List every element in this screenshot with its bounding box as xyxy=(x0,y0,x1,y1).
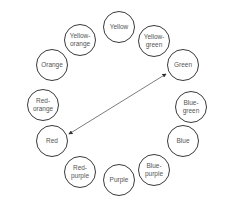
node-label: Red- purple xyxy=(71,164,89,180)
node-blue-green: Blue- green xyxy=(175,91,207,123)
node-red-purple: Red- purple xyxy=(64,156,96,188)
node-yellow: Yellow xyxy=(103,11,135,43)
node-red-orange: Red- orange xyxy=(27,89,59,121)
node-yellow-green: Yellow- green xyxy=(138,25,170,57)
node-label: Orange xyxy=(41,61,63,69)
node-orange: Orange xyxy=(36,49,68,81)
node-label: Red xyxy=(46,137,58,145)
node-label: Blue- purple xyxy=(145,162,163,178)
color-wheel-diagram: Yellow Yellow- green Green Blue- green B… xyxy=(0,0,232,205)
node-label: Yellow xyxy=(110,23,129,31)
node-label: Purple xyxy=(110,176,129,184)
node-label: Yellow- orange xyxy=(70,32,91,48)
node-green: Green xyxy=(167,49,199,81)
node-label: Red- orange xyxy=(33,97,53,113)
node-red: Red xyxy=(36,125,68,157)
node-yellow-orange: Yellow- orange xyxy=(64,24,96,56)
node-label: Green xyxy=(174,61,192,69)
node-blue: Blue xyxy=(167,125,199,157)
node-blue-purple: Blue- purple xyxy=(138,154,170,186)
node-label: Yellow- green xyxy=(144,33,165,49)
node-label: Blue xyxy=(176,137,189,145)
node-label: Blue- green xyxy=(183,99,200,115)
node-purple: Purple xyxy=(103,164,135,196)
